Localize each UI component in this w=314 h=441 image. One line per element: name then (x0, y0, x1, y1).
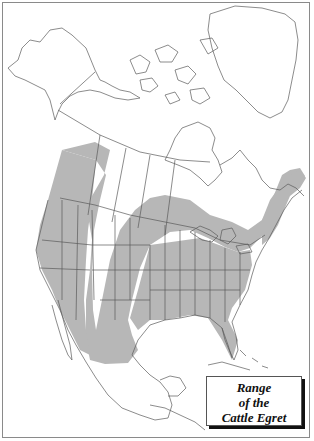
north-america-map (0, 0, 314, 441)
range-area (36, 142, 306, 364)
legend-line-1: Range (207, 380, 301, 395)
map-legend: Range of the Cattle Egret (206, 376, 302, 426)
legend-line-2: of the (207, 395, 301, 410)
legend-line-3: Cattle Egret (207, 410, 301, 425)
